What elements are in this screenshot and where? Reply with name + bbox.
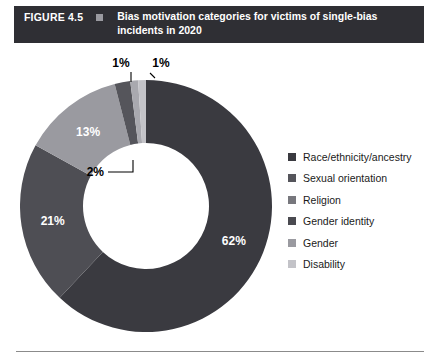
legend-item: Gender identity (288, 211, 436, 233)
legend-item: Gender (288, 232, 436, 254)
legend-item-label: Religion (303, 195, 341, 206)
legend-swatch-icon (288, 174, 296, 182)
slice-value-label: 1% (152, 56, 170, 70)
legend-item-label: Gender (303, 238, 338, 249)
donut-chart: 62%21%13% (20, 80, 272, 332)
chart-legend: Race/ethnicity/ancestrySexual orientatio… (288, 146, 436, 275)
bottom-divider (16, 351, 424, 352)
legend-item-label: Disability (303, 259, 345, 270)
legend-item: Race/ethnicity/ancestry (288, 146, 436, 168)
donut-chart-svg: 62%21%13% (20, 80, 272, 332)
legend-item-label: Race/ethnicity/ancestry (303, 152, 412, 163)
legend-swatch-icon (288, 153, 296, 161)
slice-value-label: 21% (41, 214, 65, 228)
slice-value-label: 13% (76, 125, 100, 139)
legend-item-label: Gender identity (303, 216, 374, 227)
legend-swatch-icon (288, 196, 296, 204)
legend-swatch-icon (288, 217, 296, 225)
legend-item-label: Sexual orientation (303, 173, 387, 184)
slice-value-label: 1% (112, 56, 130, 70)
figure-header: FIGURE 4.5 Bias motivation categories fo… (14, 6, 424, 43)
callout-leader-line (150, 73, 155, 78)
legend-item: Disability (288, 254, 436, 276)
legend-swatch-icon (288, 239, 296, 247)
figure-number: FIGURE 4.5 (24, 10, 83, 23)
figure-container: FIGURE 4.5 Bias motivation categories fo… (0, 0, 438, 364)
figure-title: Bias motivation categories for victims o… (117, 10, 399, 37)
square-marker-icon (96, 14, 103, 21)
legend-item: Religion (288, 189, 436, 211)
legend-item: Sexual orientation (288, 168, 436, 190)
donut-slices (20, 80, 272, 332)
legend-swatch-icon (288, 260, 296, 268)
figure-header-row: FIGURE 4.5 Bias motivation categories fo… (24, 10, 416, 37)
slice-value-label: 62% (222, 234, 246, 248)
